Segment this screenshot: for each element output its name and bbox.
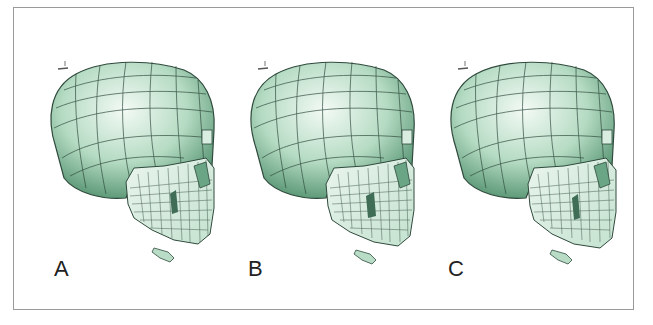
skull-wireframe-icon <box>234 8 434 268</box>
panel-label: A <box>54 256 69 282</box>
panel-c: C <box>434 8 634 311</box>
panel-b: B <box>234 8 434 311</box>
panel-a: A <box>34 8 234 311</box>
skull-wireframe-icon <box>434 8 634 268</box>
skull-wireframe-icon <box>34 8 234 268</box>
panel-label: C <box>448 256 464 282</box>
panel-label: B <box>248 256 263 282</box>
figure-frame: A <box>13 7 634 310</box>
